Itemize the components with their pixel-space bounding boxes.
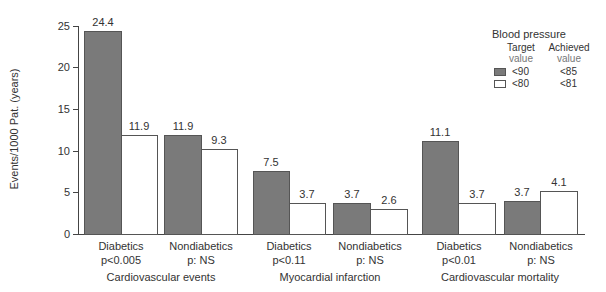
y-tick — [73, 151, 78, 152]
bar-value-label: 2.6 — [369, 194, 409, 206]
legend-achieved-value: <81 — [560, 78, 577, 89]
y-tick — [73, 192, 78, 193]
bar-value-label: 9.3 — [199, 134, 239, 146]
y-tick-label: 20 — [50, 61, 70, 73]
y-axis-line — [78, 26, 79, 234]
bar-target-90 — [504, 201, 541, 235]
group-label: Cardiovascular mortality — [410, 271, 590, 283]
bar-target-90 — [84, 31, 122, 235]
legend-achieved-value: <85 — [560, 66, 577, 77]
y-axis-label: Events/1000 Pat. (years) — [8, 24, 20, 234]
bar-value-label: 3.7 — [332, 188, 372, 200]
bar-value-label: 3.7 — [502, 186, 542, 198]
y-tick-label: 0 — [50, 228, 70, 240]
bar-value-label: 11.1 — [420, 126, 460, 138]
bar-value-label: 3.7 — [457, 188, 497, 200]
bar-target-90 — [333, 203, 371, 235]
legend-swatch-dark — [494, 68, 506, 76]
legend-swatch-light — [494, 80, 506, 88]
category-label: Nondiabeticsp: NS — [325, 239, 415, 267]
y-tick-label: 5 — [50, 186, 70, 198]
bar-target-90 — [253, 171, 290, 235]
bar-target-80 — [458, 203, 496, 235]
category-label: Diabeticsp<0.11 — [244, 239, 334, 267]
bar-value-label: 7.5 — [251, 156, 291, 168]
legend-title: Blood pressure — [492, 28, 566, 40]
y-tick-label: 25 — [50, 20, 70, 32]
legend-header-target: Targetvalue — [503, 42, 539, 64]
bar-target-80 — [540, 191, 578, 235]
bar-value-label: 4.1 — [539, 176, 579, 188]
group-label: Cardiovascular events — [71, 271, 251, 283]
y-tick-label: 15 — [50, 103, 70, 115]
y-tick-label: 10 — [50, 145, 70, 157]
y-tick — [73, 26, 78, 27]
y-tick — [73, 234, 78, 235]
category-label: Diabeticsp<0.01 — [414, 239, 504, 267]
bar-value-label: 11.9 — [119, 120, 159, 132]
bar-target-80 — [289, 203, 326, 235]
bar-target-80 — [201, 149, 238, 235]
legend-target-value: <80 — [512, 78, 529, 89]
category-label: Nondiabeticsp: NS — [156, 239, 246, 267]
category-label: Nondiabeticsp: NS — [496, 239, 586, 267]
bar-value-label: 11.9 — [163, 120, 203, 132]
legend-target-value: <90 — [512, 66, 529, 77]
bar-target-80 — [121, 135, 158, 235]
bar-value-label: 3.7 — [287, 188, 327, 200]
bar-target-90 — [422, 141, 459, 235]
y-tick — [73, 109, 78, 110]
group-label: Myocardial infarction — [240, 271, 420, 283]
y-tick — [73, 67, 78, 68]
bar-target-90 — [164, 135, 202, 235]
legend-header-achieved: Achievedvalue — [544, 42, 594, 64]
category-label: Diabeticsp<0.005 — [76, 239, 166, 267]
bar-target-80 — [370, 209, 408, 235]
bar-value-label: 24.4 — [83, 16, 123, 28]
